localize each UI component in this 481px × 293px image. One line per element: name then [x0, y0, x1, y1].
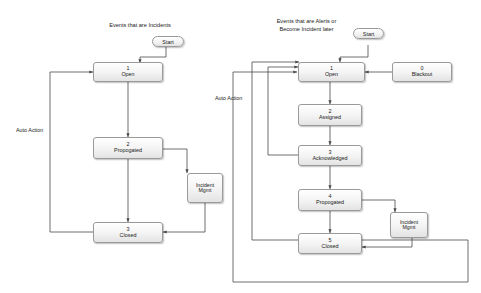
edge-left-incident-closed	[163, 203, 205, 232]
right-diagram-title: Events that are Alerts or Become Inciden…	[244, 18, 369, 34]
edge-right-propogated-incident	[362, 200, 395, 212]
right-incident-mgmt-node[interactable]: Incident Mgmt	[390, 212, 428, 238]
left-incident-mgmt-line2: Mgmt	[199, 188, 212, 193]
right-node-propogated[interactable]: 4 Propogated	[298, 189, 362, 211]
right-node-propogated-name: Propogated	[316, 200, 344, 206]
edge-right-closed-open	[252, 62, 299, 240]
left-start-label: Start	[162, 39, 173, 45]
edge-left-auto-action	[50, 72, 93, 232]
right-node-blackout-name: Blackout	[412, 72, 433, 78]
diagram-connectors	[0, 0, 481, 293]
right-node-assigned[interactable]: 2 Assigned	[298, 104, 362, 126]
edge-left-propogated-incident	[163, 149, 187, 173]
left-node-propogated-name: Propogated	[114, 148, 142, 154]
right-node-acknowledged-name: Acknowledged	[312, 156, 347, 162]
left-start-node[interactable]: Start	[152, 36, 184, 47]
left-node-closed[interactable]: 3 Closed	[93, 222, 163, 243]
right-start-label: Start	[363, 31, 374, 37]
right-incident-mgmt-line2: Mgmt	[403, 225, 416, 230]
left-node-closed-name: Closed	[120, 233, 137, 239]
left-node-open[interactable]: 1 Open	[93, 62, 163, 82]
edge-right-acknowledged-open	[268, 67, 298, 155]
right-auto-action-label: Auto Action	[215, 95, 275, 102]
left-node-open-name: Open	[121, 72, 134, 78]
right-node-open[interactable]: 1 Open	[298, 62, 365, 82]
right-node-open-name: Open	[325, 72, 338, 78]
edge-right-incident-closed	[362, 238, 412, 247]
left-node-propogated[interactable]: 2 Propogated	[93, 137, 163, 159]
right-node-closed[interactable]: 5 Closed	[298, 233, 362, 254]
right-node-assigned-name: Assigned	[319, 115, 341, 121]
left-auto-action-label: Auto Action	[16, 127, 76, 134]
right-start-node[interactable]: Start	[353, 28, 384, 39]
right-node-closed-name: Closed	[322, 244, 339, 250]
left-diagram-title: Events that are Incidents	[80, 22, 200, 30]
left-incident-mgmt-node[interactable]: Incident Mgmt	[187, 173, 223, 203]
right-node-blackout[interactable]: 0 Blackout	[392, 62, 452, 82]
edge-right-start-open	[340, 45, 368, 62]
edge-left-start-open	[140, 46, 166, 63]
right-node-acknowledged[interactable]: 3 Acknowledged	[298, 145, 362, 166]
